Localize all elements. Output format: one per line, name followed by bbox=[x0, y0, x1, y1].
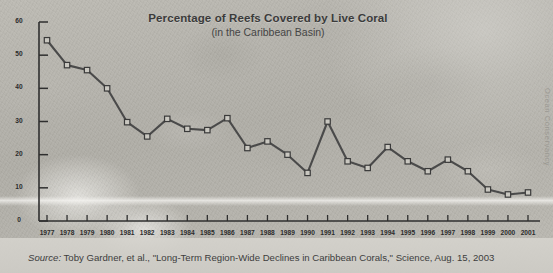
data-point-1985 bbox=[205, 127, 210, 132]
data-point-1988 bbox=[265, 139, 270, 144]
chart-data-series bbox=[44, 38, 530, 198]
source-text: Toby Gardner, et al., "Long-Term Region-… bbox=[64, 252, 495, 263]
data-point-1994 bbox=[385, 144, 390, 149]
data-point-1978 bbox=[64, 62, 69, 67]
data-point-1996 bbox=[425, 169, 430, 174]
photo-credit: Ocean Conservancy bbox=[543, 88, 552, 166]
data-point-1979 bbox=[84, 67, 89, 72]
y-tick-label-60: 60 bbox=[6, 17, 32, 24]
y-tick-label-0: 0 bbox=[6, 216, 32, 223]
data-point-1990 bbox=[305, 170, 310, 175]
data-point-1987 bbox=[245, 145, 250, 150]
data-point-1989 bbox=[285, 152, 290, 157]
data-point-1980 bbox=[104, 86, 109, 91]
y-tick-label-10: 10 bbox=[6, 183, 32, 190]
x-tick-label-2001: 2001 bbox=[515, 229, 541, 236]
data-point-1999 bbox=[485, 187, 490, 192]
chart-container: Percentage of Reefs Covered by Live Cora… bbox=[0, 0, 553, 273]
data-point-1977 bbox=[44, 38, 49, 43]
source-caption: Source: Toby Gardner, et al., "Long-Term… bbox=[28, 252, 494, 263]
data-point-1983 bbox=[165, 116, 170, 121]
data-point-1992 bbox=[345, 159, 350, 164]
y-tick-label-50: 50 bbox=[6, 50, 32, 57]
data-point-1998 bbox=[465, 169, 470, 174]
data-point-1993 bbox=[365, 165, 370, 170]
data-point-1982 bbox=[145, 134, 150, 139]
chart-axes bbox=[39, 22, 540, 221]
source-label: Source: bbox=[28, 252, 61, 263]
y-tick-label-40: 40 bbox=[6, 83, 32, 90]
data-point-1984 bbox=[185, 126, 190, 131]
data-point-1981 bbox=[124, 119, 129, 124]
y-tick-label-20: 20 bbox=[6, 150, 32, 157]
data-point-2001 bbox=[525, 190, 530, 195]
data-point-2000 bbox=[505, 192, 510, 197]
data-point-1986 bbox=[225, 115, 230, 120]
data-point-1995 bbox=[405, 159, 410, 164]
data-point-1997 bbox=[445, 157, 450, 162]
data-point-1991 bbox=[325, 119, 330, 124]
y-tick-label-30: 30 bbox=[6, 117, 32, 124]
